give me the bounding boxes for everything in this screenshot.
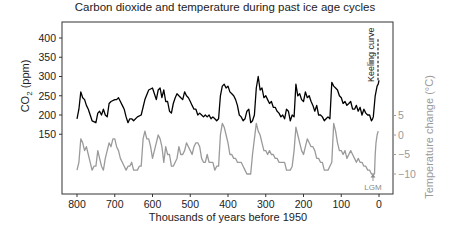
x-tick-label: 100 (332, 198, 350, 210)
x-tick-label: 500 (181, 198, 199, 210)
y-right-tick-label: 0 (398, 129, 404, 141)
y-axis-left-ticks: 400350300250200150 (38, 32, 62, 140)
y-left-tick-label: 300 (38, 70, 56, 82)
x-tick-label: 600 (144, 198, 162, 210)
x-axis-title: Thousands of years before 1950 (149, 211, 307, 223)
y-right-tick-label: −5 (398, 148, 410, 160)
y-left-tick-label: 250 (38, 90, 56, 102)
x-axis-ticks: 8007006005004003002001000 (68, 194, 382, 210)
keeling-curve-label: Keeling curve (366, 27, 376, 82)
y-axis-right-title: Temperature change (°C) (423, 75, 435, 199)
y-left-tick-label: 150 (38, 128, 56, 140)
y-left-tick-label: 350 (38, 51, 56, 63)
x-tick-label: 400 (219, 198, 237, 210)
temperature-series-line (77, 123, 378, 174)
y-axis-left-title: CO2 (ppm) (19, 60, 34, 113)
x-tick-label: 300 (257, 198, 275, 210)
chart-plot: 8007006005004003002001000 40035030025020… (0, 0, 450, 226)
y-left-tick-label: 200 (38, 109, 56, 121)
x-tick-label: 800 (68, 198, 86, 210)
y-left-tick-label: 400 (38, 32, 56, 44)
x-tick-label: 0 (376, 198, 382, 210)
y-right-tick-label: 5 (398, 109, 404, 121)
lgm-arrow-icon (371, 174, 376, 181)
y-axis-right-ticks: 50−5−10 (393, 109, 416, 180)
x-tick-label: 200 (295, 198, 313, 210)
y-right-tick-label: −10 (398, 168, 416, 180)
co2-series-line (77, 77, 379, 123)
plot-frame (62, 22, 393, 194)
x-tick-label: 700 (106, 198, 124, 210)
lgm-label: LGM (364, 183, 382, 192)
